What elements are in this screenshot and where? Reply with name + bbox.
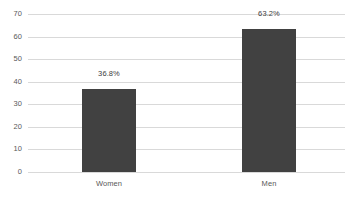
bar-value-label-women: 36.8%: [98, 69, 120, 78]
x-axis-tick-label-men: Men: [262, 179, 277, 188]
gridline: [28, 37, 345, 38]
bar-men: [242, 29, 296, 172]
gridline: [28, 14, 345, 15]
plot-area: [28, 14, 345, 172]
y-axis-tick-label: 30: [0, 101, 22, 109]
gridline: [28, 104, 345, 105]
y-axis-tick-label: 10: [0, 146, 22, 154]
baseline-gridline: [28, 172, 345, 173]
y-axis-tick-label: 40: [0, 78, 22, 86]
y-axis-tick-label: 0: [0, 168, 22, 176]
y-axis-tick-label: 20: [0, 123, 22, 131]
gridline: [28, 127, 345, 128]
gridline: [28, 82, 345, 83]
y-axis-tick-label: 50: [0, 55, 22, 63]
x-axis-tick-label-women: Women: [96, 179, 122, 188]
gridline: [28, 59, 345, 60]
gridline: [28, 149, 345, 150]
bar-women: [82, 89, 136, 172]
y-axis-tick-label: 70: [0, 10, 22, 18]
bar-value-label-men: 63.2%: [258, 9, 280, 18]
y-axis-tick-label: 60: [0, 33, 22, 41]
bar-chart: 70 60 50 40 30 20 10 0 36.8% 63.2% Women…: [0, 0, 357, 198]
